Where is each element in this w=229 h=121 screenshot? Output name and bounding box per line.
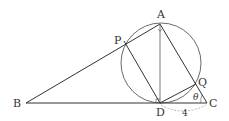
- label-a: A: [156, 8, 166, 21]
- angle-arc-c: [201, 95, 202, 103]
- label-d: D: [156, 106, 165, 119]
- segment-ab: [26, 24, 160, 103]
- label-c: C: [209, 97, 217, 110]
- triangle-circle-diagram: A P B D C Q θ 4: [0, 0, 229, 121]
- segment-dq: [160, 84, 196, 103]
- segment-pd: [124, 41, 160, 103]
- label-q: Q: [198, 76, 207, 89]
- label-theta: θ: [193, 92, 199, 102]
- label-p: P: [114, 34, 122, 47]
- circle-through-a-d: [121, 23, 201, 103]
- label-b: B: [13, 97, 21, 110]
- label-length-4: 4: [182, 108, 188, 118]
